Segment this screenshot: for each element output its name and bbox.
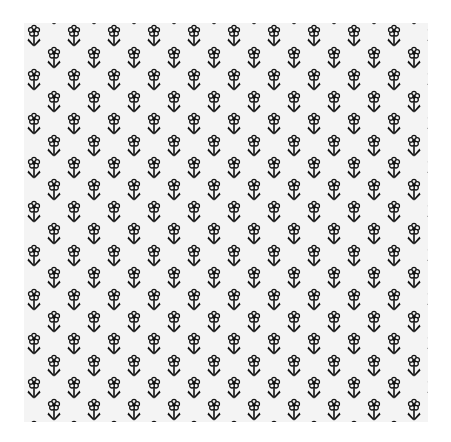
flower-pattern-svg — [24, 23, 428, 422]
floral-pattern-fabric — [24, 23, 428, 422]
flower-rows — [24, 23, 428, 422]
